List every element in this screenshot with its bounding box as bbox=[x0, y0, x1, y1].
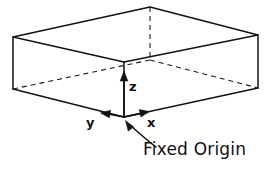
axis-x bbox=[124, 110, 150, 117]
coordinate-axes bbox=[101, 71, 150, 118]
fixed-origin-caption: Fixed Origin bbox=[143, 139, 246, 159]
axis-label-y: y bbox=[86, 116, 94, 129]
axis-z bbox=[120, 71, 128, 117]
axis-x-line bbox=[124, 113, 141, 117]
axis-label-z: z bbox=[129, 80, 137, 93]
rectangular-slab bbox=[13, 7, 258, 117]
axis-label-x: x bbox=[147, 116, 155, 129]
axis-z-arrowhead-icon bbox=[120, 71, 128, 81]
slab-top-face bbox=[13, 7, 258, 62]
slab-bottom-back-right-hidden-edge bbox=[150, 60, 258, 88]
caption-leader-arrowhead-icon bbox=[126, 121, 134, 132]
figure-canvas: z y x Fixed Origin bbox=[0, 0, 270, 175]
